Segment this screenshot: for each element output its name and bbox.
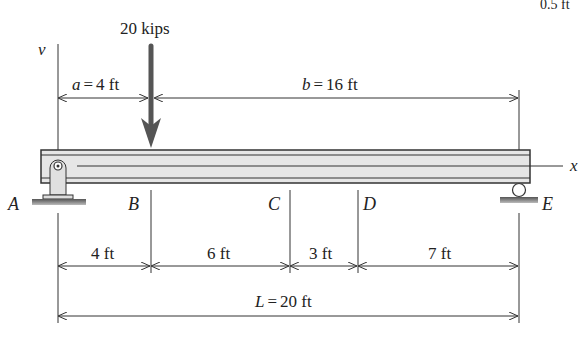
load-label: 20 kips <box>120 19 170 38</box>
point-c-label: C <box>268 194 281 214</box>
segment-cd-label: 3 ft <box>309 244 332 263</box>
x-axis-label: x <box>569 156 578 175</box>
clipped-corner-text: 0.5 ft <box>540 0 570 12</box>
point-load: 20 kips <box>120 19 170 148</box>
point-a-label: A <box>7 194 20 214</box>
point-d-label: D <box>362 194 376 214</box>
beam: x <box>41 150 578 183</box>
segment-bc-label: 6 ft <box>207 244 230 263</box>
dim-a: a=4 ft <box>72 75 120 94</box>
point-e-label: E <box>541 194 553 214</box>
segment-de-label: 7 ft <box>428 244 451 263</box>
dim-b: b=16 ft <box>302 75 358 94</box>
segment-ab-label: 4 ft <box>91 244 114 263</box>
v-axis: v <box>38 40 58 150</box>
beam-diagram: 0.5 ft v 20 kips a=4 ft b=16 ft x <box>0 0 578 350</box>
point-b-label: B <box>128 194 139 214</box>
roller-support-e <box>500 184 538 204</box>
total-length-label: L=20 ft <box>254 292 312 311</box>
v-axis-label: v <box>38 40 46 59</box>
point-labels: A B C D E <box>7 194 553 214</box>
top-dimensions: a=4 ft b=16 ft <box>59 75 519 150</box>
